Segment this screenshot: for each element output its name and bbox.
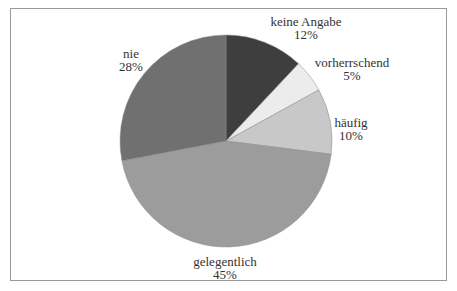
label-value: 5% — [315, 69, 389, 82]
label-value: 10% — [334, 129, 367, 142]
label-value: 45% — [193, 268, 257, 281]
label-keine-angabe: keine Angabe 12% — [270, 15, 341, 41]
label-nie: nie 28% — [119, 47, 143, 73]
label-haeufig: häufig 10% — [334, 116, 367, 142]
label-value: 28% — [119, 60, 143, 73]
pie-chart — [0, 0, 457, 291]
label-vorherrschend: vorherrschend 5% — [315, 56, 389, 82]
pie-slice-gelegentlich — [122, 141, 331, 247]
label-value: 12% — [270, 28, 341, 41]
label-gelegentlich: gelegentlich 45% — [193, 255, 257, 281]
